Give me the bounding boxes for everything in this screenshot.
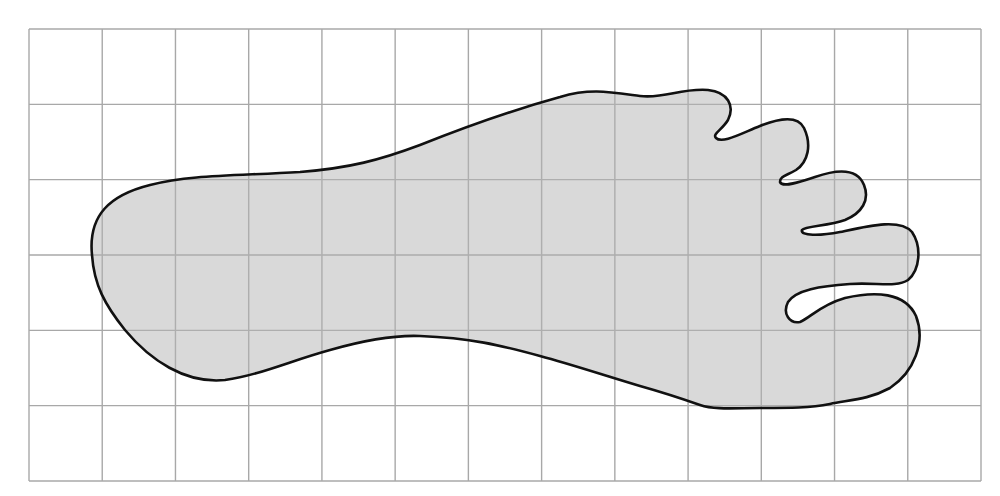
footprint-diagram — [0, 0, 1000, 496]
footprint-icon — [92, 90, 920, 409]
figure-canvas — [0, 0, 1000, 496]
grid-overlay — [29, 29, 981, 481]
